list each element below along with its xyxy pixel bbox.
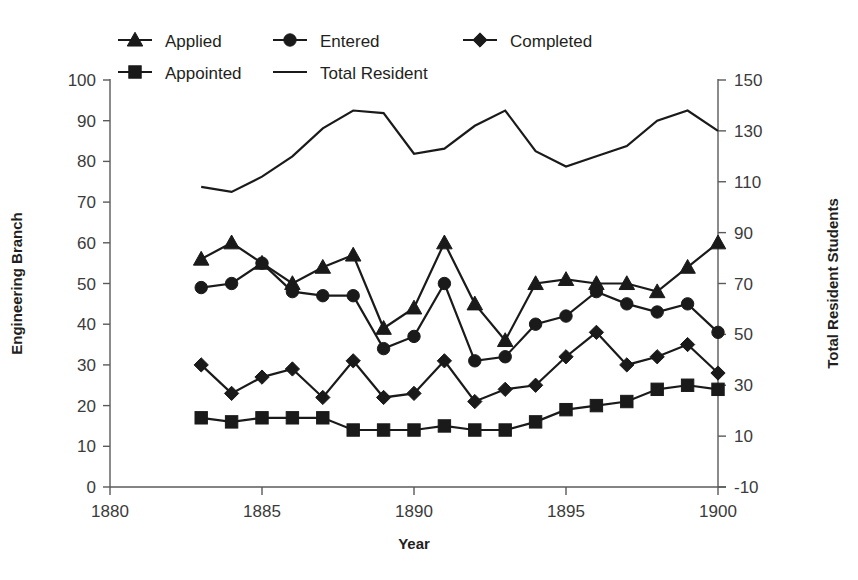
y-axis-right-tick-label: 50	[734, 325, 753, 344]
data-point-circle	[256, 257, 268, 269]
data-point-triangle	[315, 259, 331, 273]
data-point-circle	[529, 318, 541, 330]
x-axis-tick-label: 1900	[699, 502, 737, 521]
y-axis-right-tick-label: 150	[734, 71, 762, 90]
legend-marker-square	[129, 66, 141, 78]
data-point-triangle	[376, 321, 392, 335]
y-axis-left-tick-label: 10	[77, 437, 96, 456]
y-axis-right-tick-label: 110	[734, 173, 761, 192]
chart-series	[193, 111, 725, 437]
y-axis-left-tick-label: 50	[77, 275, 96, 294]
y-axis-left-title: Engineering Branch	[8, 212, 25, 355]
legend-marker-diamond	[473, 33, 487, 47]
data-point-triangle	[345, 247, 361, 261]
data-point-circle	[286, 285, 298, 297]
data-point-circle	[377, 342, 389, 354]
data-point-triangle	[193, 251, 209, 265]
y-axis-right-tick-label: 10	[734, 427, 753, 446]
legend-label: Entered	[320, 32, 380, 51]
x-axis-tick-label: 1880	[91, 502, 129, 521]
legend-item[interactable]: Entered	[273, 32, 380, 51]
data-point-square	[438, 420, 450, 432]
y-axis-right-tick-label: 90	[734, 224, 753, 243]
legend-item[interactable]: Total Resident	[273, 64, 428, 83]
series-group	[201, 111, 718, 192]
data-point-square	[469, 424, 481, 436]
data-point-square	[317, 412, 329, 424]
data-point-square	[621, 395, 633, 407]
chart-container: AppliedEnteredCompletedAppointedTotal Re…	[0, 0, 858, 580]
data-point-circle	[225, 277, 237, 289]
data-point-diamond	[650, 350, 664, 364]
data-point-circle	[408, 330, 420, 342]
chart-svg: AppliedEnteredCompletedAppointedTotal Re…	[0, 0, 858, 580]
data-point-circle	[590, 285, 602, 297]
data-point-square	[225, 416, 237, 428]
y-axis-left-tick-label: 90	[77, 112, 96, 131]
legend-label: Completed	[510, 32, 592, 51]
data-point-square	[712, 383, 724, 395]
data-point-square	[529, 416, 541, 428]
chart-legend: AppliedEnteredCompletedAppointedTotal Re…	[118, 32, 592, 83]
legend-item[interactable]: Applied	[118, 32, 222, 51]
y-axis-right-tick-label: 70	[734, 275, 753, 294]
data-point-square	[256, 412, 268, 424]
data-point-circle	[195, 281, 207, 293]
legend-label: Applied	[165, 32, 222, 51]
data-point-triangle	[558, 272, 574, 286]
data-point-circle	[560, 310, 572, 322]
data-point-circle	[347, 290, 359, 302]
legend-label: Total Resident	[320, 64, 428, 83]
data-point-square	[408, 424, 420, 436]
y-axis-right-title: Total Resident Students	[824, 198, 841, 369]
legend-item[interactable]: Appointed	[118, 64, 242, 83]
x-axis-tick-label: 1890	[395, 502, 433, 521]
x-axis-tick-label: 1885	[243, 502, 281, 521]
y-axis-left-tick-label: 30	[77, 356, 96, 375]
data-point-triangle	[710, 235, 726, 249]
y-axis-left-tick-label: 80	[77, 152, 96, 171]
y-axis-right-tick-label: 130	[734, 122, 762, 141]
series-path	[201, 243, 718, 341]
legend-label: Appointed	[165, 64, 242, 83]
data-point-circle	[438, 277, 450, 289]
series-path	[201, 111, 718, 192]
data-point-square	[590, 399, 602, 411]
series-group	[193, 235, 725, 346]
data-point-square	[499, 424, 511, 436]
data-point-square	[286, 412, 298, 424]
x-axis-title: Year	[398, 535, 430, 552]
series-path	[201, 385, 718, 430]
y-axis-left-tick-label: 70	[77, 193, 96, 212]
y-axis-left-tick-label: 0	[87, 478, 96, 497]
data-point-square	[347, 424, 359, 436]
data-point-square	[681, 379, 693, 391]
data-point-circle	[681, 298, 693, 310]
data-point-triangle	[224, 235, 240, 249]
data-point-circle	[499, 351, 511, 363]
series-group	[194, 325, 725, 408]
data-point-diamond	[498, 382, 512, 396]
series-path	[201, 332, 718, 401]
y-axis-left-tick-label: 60	[77, 234, 96, 253]
y-axis-left-tick-label: 40	[77, 315, 96, 334]
data-point-circle	[651, 306, 663, 318]
legend-item[interactable]: Completed	[463, 32, 592, 51]
data-point-square	[377, 424, 389, 436]
x-axis-tick-label: 1895	[547, 502, 585, 521]
data-point-circle	[469, 355, 481, 367]
data-point-circle	[317, 290, 329, 302]
data-point-square	[651, 383, 663, 395]
series-path	[201, 263, 718, 361]
data-point-square	[560, 403, 572, 415]
y-axis-right-tick-label: -10	[734, 478, 759, 497]
data-point-circle	[712, 326, 724, 338]
y-axis-left-tick-label: 20	[77, 397, 96, 416]
data-point-circle	[621, 298, 633, 310]
y-axis-left-tick-label: 100	[68, 71, 96, 90]
data-point-triangle	[437, 235, 453, 249]
data-point-diamond	[255, 370, 269, 384]
data-point-triangle	[406, 300, 422, 314]
y-axis-right-tick-label: 30	[734, 376, 753, 395]
series-group	[195, 379, 724, 436]
